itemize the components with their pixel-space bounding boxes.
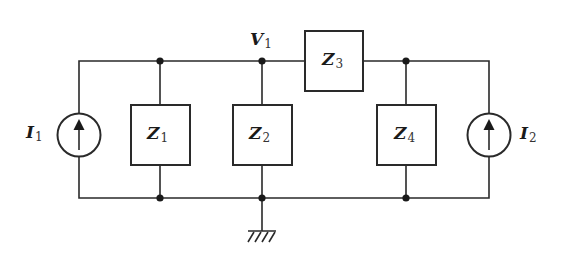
- label-z1: Z1: [147, 123, 168, 143]
- label-i2: I2: [520, 123, 537, 143]
- label-z2: Z2: [249, 123, 270, 143]
- ground-icon: [248, 198, 276, 242]
- label-i1: I1: [26, 122, 43, 142]
- label-z4: Z4: [394, 123, 415, 143]
- circuit-diagram: I1 Z1 Z2 Z3 Z4 I2 V1: [0, 0, 573, 264]
- current-source-i1-icon: [58, 114, 101, 157]
- current-source-i2-icon: [468, 114, 511, 157]
- label-v1: V1: [250, 29, 272, 49]
- label-z3: Z3: [322, 49, 343, 69]
- circuit-schematic: [0, 0, 573, 264]
